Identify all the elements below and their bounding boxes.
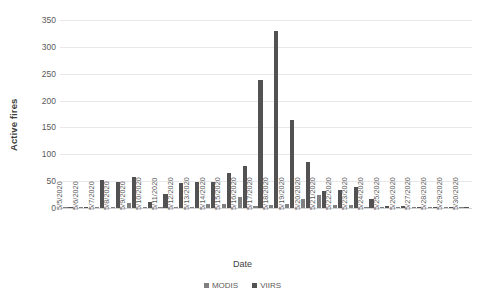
y-axis-tick-300: 300 <box>22 42 56 52</box>
x-axis-title: Date <box>0 259 485 269</box>
bar-modis[interactable] <box>111 207 115 208</box>
x-axis-tick: 5/18/2020 <box>266 209 282 259</box>
bar-modis[interactable] <box>444 207 448 208</box>
x-axis-tick: 5/29/2020 <box>440 209 456 259</box>
x-axis-tick-label: 5/21/2020 <box>308 177 317 210</box>
bar-modis[interactable] <box>206 204 210 208</box>
x-axis-tick-label: 5/5/2020 <box>54 181 63 210</box>
bar-group <box>60 20 76 208</box>
x-axis-tick-label: 5/10/2020 <box>134 177 143 210</box>
legend-label: MODIS <box>212 281 238 290</box>
y-axis-tick-200: 200 <box>22 96 56 106</box>
bar-modis[interactable] <box>143 207 147 208</box>
bar-modis[interactable] <box>253 206 257 208</box>
x-axis-tick: 5/26/2020 <box>393 209 409 259</box>
x-axis-tick: 5/14/2020 <box>203 209 219 259</box>
bar-modis[interactable] <box>459 207 463 208</box>
legend-item-viirs[interactable]: VIIRS <box>252 281 281 290</box>
y-axis-tick-250: 250 <box>22 69 56 79</box>
x-axis-tick-label: 5/17/2020 <box>245 177 254 210</box>
x-axis-tick: 5/25/2020 <box>377 209 393 259</box>
x-axis-tick-label: 5/29/2020 <box>435 177 444 210</box>
x-axis-tick-label: 5/6/2020 <box>70 181 79 210</box>
x-axis-tick: 5/5/2020 <box>60 209 76 259</box>
bar-modis[interactable] <box>238 197 242 208</box>
bar-group <box>92 20 108 208</box>
x-axis-tick-labels: 5/5/20205/6/20205/7/20205/8/20205/9/2020… <box>60 209 472 259</box>
x-axis-tick-label: 5/19/2020 <box>276 177 285 210</box>
x-axis-tick: 5/7/2020 <box>92 209 108 259</box>
y-axis-tick-100: 100 <box>22 149 56 159</box>
x-axis-tick-label: 5/20/2020 <box>292 177 301 210</box>
bar-group <box>76 20 92 208</box>
y-axis-tick-0: 0 <box>22 203 56 213</box>
y-axis-tick-labels: 050100150200250300350 <box>22 20 56 208</box>
legend-swatch-icon <box>204 283 209 288</box>
x-axis-tick: 5/11/2020 <box>155 209 171 259</box>
x-axis-tick: 5/19/2020 <box>282 209 298 259</box>
x-axis-tick: 5/27/2020 <box>409 209 425 259</box>
x-axis-tick-label: 5/11/2020 <box>149 178 158 210</box>
x-axis-tick-label: 5/14/2020 <box>197 177 206 210</box>
bar-modis[interactable] <box>428 207 432 208</box>
x-axis-tick-label: 5/25/2020 <box>371 177 380 210</box>
legend-label: VIIRS <box>260 281 281 290</box>
bar-group <box>108 20 124 208</box>
bar-modis[interactable] <box>396 207 400 208</box>
x-axis-tick: 5/30/2020 <box>456 209 472 259</box>
x-axis-tick-label: 5/13/2020 <box>181 177 190 210</box>
bar-modis[interactable] <box>190 207 194 208</box>
x-axis-tick-label: 5/27/2020 <box>403 177 412 210</box>
bar-modis[interactable] <box>317 195 321 208</box>
bar-modis[interactable] <box>301 199 305 208</box>
y-axis-tick-50: 50 <box>22 176 56 186</box>
x-axis-tick-label: 5/26/2020 <box>387 177 396 210</box>
chart-legend: MODISVIIRS <box>0 281 485 290</box>
bar-chart: Active fires 050100150200250300350 5/5/2… <box>0 0 485 308</box>
x-axis-tick: 5/21/2020 <box>314 209 330 259</box>
x-axis-tick-label: 5/8/2020 <box>102 181 111 210</box>
x-axis-tick: 5/20/2020 <box>298 209 314 259</box>
x-axis-tick: 5/22/2020 <box>329 209 345 259</box>
bar-modis[interactable] <box>349 205 353 208</box>
bar-modis[interactable] <box>63 207 67 208</box>
y-axis-tick-350: 350 <box>22 15 56 25</box>
x-axis-tick-label: 5/22/2020 <box>324 177 333 210</box>
x-axis-tick: 5/15/2020 <box>218 209 234 259</box>
y-axis-tick-150: 150 <box>22 122 56 132</box>
x-axis-tick-label: 5/15/2020 <box>213 177 222 210</box>
bar-modis[interactable] <box>95 207 99 208</box>
x-axis-tick-label: 5/12/2020 <box>165 177 174 210</box>
x-axis-tick: 5/9/2020 <box>123 209 139 259</box>
x-axis-tick-label: 5/24/2020 <box>355 177 364 210</box>
x-axis-tick: 5/10/2020 <box>139 209 155 259</box>
x-axis-tick-label: 5/23/2020 <box>340 177 349 210</box>
bar-modis[interactable] <box>285 204 289 208</box>
x-axis-tick: 5/28/2020 <box>424 209 440 259</box>
legend-item-modis[interactable]: MODIS <box>204 281 238 290</box>
x-axis-tick: 5/12/2020 <box>171 209 187 259</box>
x-axis-tick: 5/24/2020 <box>361 209 377 259</box>
bar-modis[interactable] <box>333 205 337 208</box>
bar-modis[interactable] <box>222 204 226 208</box>
bar-modis[interactable] <box>364 207 368 208</box>
y-axis-title: Active fires <box>6 70 22 180</box>
legend-swatch-icon <box>252 283 257 288</box>
x-axis-tick-label: 5/28/2020 <box>419 177 428 210</box>
x-axis-tick-label: 5/18/2020 <box>260 177 269 210</box>
bar-viirs[interactable] <box>464 207 468 208</box>
bar-modis[interactable] <box>380 207 384 208</box>
bar-modis[interactable] <box>158 207 162 208</box>
x-axis-tick: 5/6/2020 <box>76 209 92 259</box>
bar-modis[interactable] <box>412 207 416 208</box>
x-axis-tick: 5/16/2020 <box>234 209 250 259</box>
x-axis-tick: 5/8/2020 <box>108 209 124 259</box>
bar-modis[interactable] <box>127 203 131 208</box>
x-axis-tick: 5/23/2020 <box>345 209 361 259</box>
bar-modis[interactable] <box>174 207 178 208</box>
bar-modis[interactable] <box>269 205 273 208</box>
x-axis-tick-label: 5/30/2020 <box>451 177 460 210</box>
x-axis-tick: 5/13/2020 <box>187 209 203 259</box>
bar-modis[interactable] <box>79 207 83 208</box>
x-axis-tick-label: 5/7/2020 <box>86 181 95 210</box>
